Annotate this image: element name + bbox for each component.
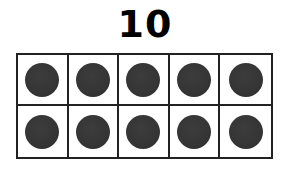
frame-cell: [170, 106, 221, 157]
filled-counter-dot: [126, 115, 160, 149]
filled-counter-dot: [25, 63, 59, 97]
filled-counter-dot: [126, 63, 160, 97]
filled-counter-dot: [177, 63, 211, 97]
frame-cell: [170, 55, 221, 106]
frame-cell: [18, 106, 69, 157]
filled-counter-dot: [229, 63, 263, 97]
ten-frame: [16, 53, 273, 159]
frame-cell: [69, 55, 120, 106]
frame-cell: [119, 106, 170, 157]
filled-counter-dot: [229, 115, 263, 149]
filled-counter-dot: [177, 115, 211, 149]
frame-cell: [18, 55, 69, 106]
frame-cell: [220, 55, 271, 106]
frame-cell: [220, 106, 271, 157]
frame-cell: [119, 55, 170, 106]
frame-cell: [69, 106, 120, 157]
filled-counter-dot: [25, 115, 59, 149]
filled-counter-dot: [76, 63, 110, 97]
filled-counter-dot: [76, 115, 110, 149]
number-title: 10: [0, 2, 285, 46]
